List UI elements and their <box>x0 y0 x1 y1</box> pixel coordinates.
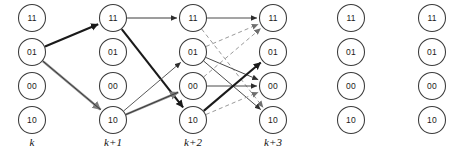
trellis-node-01[interactable]: 01 <box>180 39 207 66</box>
node-state-label: 01 <box>188 47 198 57</box>
node-state-label: 10 <box>346 115 356 125</box>
trellis-node-10[interactable]: 10 <box>419 107 446 134</box>
trellis-node-10[interactable]: 10 <box>100 107 127 134</box>
trellis-node-10[interactable]: 10 <box>260 107 287 134</box>
trellis-node-00[interactable]: 00 <box>260 73 287 100</box>
trellis-edge <box>206 58 258 80</box>
node-state-label: 10 <box>268 115 278 125</box>
trellis-node-11[interactable]: 11 <box>338 5 365 32</box>
node-state-label: 11 <box>346 13 355 23</box>
node-state-label: 01 <box>427 47 437 57</box>
trellis-node-11[interactable]: 11 <box>419 5 446 32</box>
trellis-node-00[interactable]: 00 <box>338 73 365 100</box>
node-state-label: 11 <box>427 13 436 23</box>
trellis-node-01[interactable]: 01 <box>260 39 287 66</box>
trellis-edge <box>206 24 258 46</box>
stage-label-k: k <box>30 136 36 148</box>
node-state-label: 10 <box>27 115 37 125</box>
node-state-label: 00 <box>346 81 356 91</box>
node-state-label: 10 <box>427 115 437 125</box>
trellis-node-10[interactable]: 10 <box>338 107 365 134</box>
trellis-node-00[interactable]: 00 <box>19 73 46 100</box>
node-state-label: 01 <box>268 47 278 57</box>
node-state-label: 11 <box>108 13 117 23</box>
node-state-label: 00 <box>108 81 118 91</box>
trellis-node-10[interactable]: 10 <box>19 107 46 134</box>
trellis-node-11[interactable]: 11 <box>260 5 287 32</box>
node-state-label: 01 <box>27 47 37 57</box>
node-state-label: 01 <box>346 47 356 57</box>
node-state-label: 11 <box>188 13 197 23</box>
stage-label-kplus3: k+3 <box>264 136 282 148</box>
trellis-node-00[interactable]: 00 <box>419 73 446 100</box>
trellis-node-01[interactable]: 01 <box>419 39 446 66</box>
node-state-label: 11 <box>268 13 277 23</box>
trellis-node-00[interactable]: 00 <box>180 73 207 100</box>
trellis-node-01[interactable]: 01 <box>100 39 127 66</box>
node-state-label: 10 <box>108 115 118 125</box>
trellis-diagram: 1101001011010010110100101101001011010010… <box>0 0 463 158</box>
stage-label-kplus2: k+2 <box>184 136 202 148</box>
trellis-edge <box>43 61 101 110</box>
trellis-canvas: 1101001011010010110100101101001011010010… <box>0 0 463 158</box>
stage-label-kplus1: k+1 <box>104 136 122 148</box>
trellis-node-11[interactable]: 11 <box>180 5 207 32</box>
node-state-label: 10 <box>188 115 198 125</box>
trellis-edge <box>45 24 98 46</box>
node-state-label: 00 <box>268 81 278 91</box>
node-state-label: 01 <box>108 47 118 57</box>
trellis-node-11[interactable]: 11 <box>100 5 127 32</box>
stage-label-layer: kk+1k+2k+3 <box>30 136 283 148</box>
node-state-label: 00 <box>27 81 37 91</box>
trellis-node-01[interactable]: 01 <box>338 39 365 66</box>
edge-layer <box>43 18 263 114</box>
node-state-label: 11 <box>27 13 36 23</box>
trellis-node-11[interactable]: 11 <box>19 5 46 32</box>
node-state-label: 00 <box>427 81 437 91</box>
trellis-node-01[interactable]: 01 <box>19 39 46 66</box>
trellis-node-10[interactable]: 10 <box>180 107 207 134</box>
node-state-label: 00 <box>188 81 198 91</box>
trellis-edge <box>126 92 178 114</box>
trellis-node-00[interactable]: 00 <box>100 73 127 100</box>
